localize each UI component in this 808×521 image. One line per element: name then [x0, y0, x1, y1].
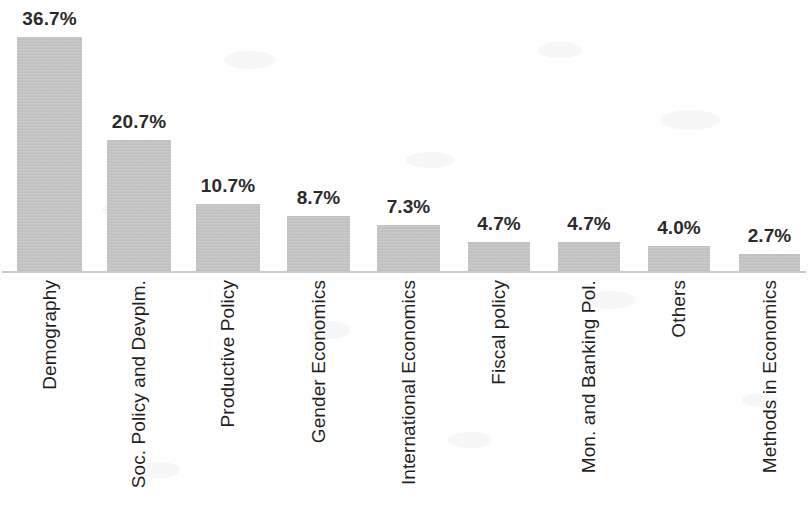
category-label-slot: Productive Policy — [196, 274, 260, 521]
bar-value-label: 7.3% — [387, 196, 431, 218]
category-label-slot: Mon. and Banking Pol. — [558, 274, 620, 521]
bar-value-label: 4.0% — [657, 217, 701, 239]
bar[interactable] — [648, 246, 710, 272]
plot-area: 36.7% 20.7% 10.7% 8.7% 7.3% 4.7% — [0, 0, 808, 272]
bar[interactable] — [287, 216, 350, 272]
bar-group: 7.3% — [377, 0, 440, 272]
bar-value-label: 20.7% — [112, 111, 166, 133]
bar[interactable] — [17, 37, 82, 272]
bar-group: 36.7% — [17, 0, 82, 272]
bar-value-label: 8.7% — [297, 187, 341, 209]
category-label: Others — [668, 280, 690, 338]
category-label: Demography — [39, 280, 61, 390]
category-label-slot: Others — [648, 274, 710, 521]
bar-group: 8.7% — [287, 0, 350, 272]
bar-group: 20.7% — [107, 0, 171, 272]
category-label-slot: Demography — [17, 274, 82, 521]
category-label-slot: Methods in Economics — [739, 274, 800, 521]
bar[interactable] — [739, 254, 800, 272]
bar-value-label: 4.7% — [567, 213, 611, 235]
bar-value-label: 2.7% — [748, 225, 792, 247]
category-label: Fiscal policy — [488, 280, 510, 385]
bar-value-label: 4.7% — [477, 213, 521, 235]
bar[interactable] — [468, 242, 530, 272]
category-label-slot: Soc. Policy and Devplm. — [107, 274, 171, 521]
bar[interactable] — [196, 204, 260, 272]
bar[interactable] — [377, 225, 440, 272]
category-label-slot: Fiscal policy — [468, 274, 530, 521]
bar-group: 4.7% — [558, 0, 620, 272]
category-label: Methods in Economics — [759, 280, 781, 473]
bar[interactable] — [558, 242, 620, 272]
bar-group: 4.0% — [648, 0, 710, 272]
bar-group: 10.7% — [196, 0, 260, 272]
bar[interactable] — [107, 140, 171, 272]
category-label-slot: Gender Economics — [287, 274, 350, 521]
category-axis-labels: Demography Soc. Policy and Devplm. Produ… — [0, 274, 808, 521]
category-label: International Economics — [398, 280, 420, 485]
bar-group: 4.7% — [468, 0, 530, 272]
category-label: Gender Economics — [308, 280, 330, 443]
category-label-slot: International Economics — [377, 274, 440, 521]
bar-value-label: 10.7% — [201, 175, 255, 197]
category-label: Mon. and Banking Pol. — [578, 280, 600, 473]
bar-group: 2.7% — [739, 0, 800, 272]
category-label: Productive Policy — [217, 280, 239, 427]
bar-value-label: 36.7% — [22, 8, 76, 30]
category-label: Soc. Policy and Devplm. — [128, 280, 150, 488]
bar-chart-figure: 36.7% 20.7% 10.7% 8.7% 7.3% 4.7% — [0, 0, 808, 521]
